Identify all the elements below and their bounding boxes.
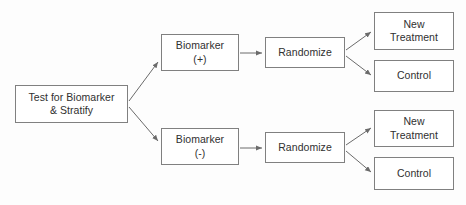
edge-randomize-pos-to-control	[346, 56, 371, 75]
node-control-positive-arm[interactable]: Control	[374, 60, 454, 92]
node-test-for-biomarker-and-stratify[interactable]: Test for Biomarker & Stratify	[15, 85, 128, 123]
node-label: New Treatment	[375, 18, 453, 45]
node-label: Control	[375, 167, 453, 180]
edge-test-to-biomarker-neg	[129, 107, 158, 141]
node-randomize-negative-arm[interactable]: Randomize	[265, 132, 345, 163]
edge-randomize-neg-to-control	[346, 151, 371, 172]
flowchart-canvas: Test for Biomarker & Stratify Biomarker …	[0, 0, 466, 205]
node-label: Biomarker (+)	[162, 39, 238, 66]
edge-test-to-biomarker-pos	[129, 62, 158, 101]
node-label: New Treatment	[375, 115, 453, 142]
node-randomize-positive-arm[interactable]: Randomize	[265, 37, 345, 68]
node-control-negative-arm[interactable]: Control	[374, 157, 454, 190]
node-label: Test for Biomarker & Stratify	[16, 91, 127, 118]
node-new-treatment-negative-arm[interactable]: New Treatment	[374, 110, 454, 147]
node-biomarker-positive[interactable]: Biomarker (+)	[161, 34, 239, 71]
node-biomarker-negative[interactable]: Biomarker (-)	[161, 128, 239, 165]
node-new-treatment-positive-arm[interactable]: New Treatment	[374, 12, 454, 50]
edge-randomize-pos-to-new-treatment	[346, 32, 371, 50]
node-label: Biomarker (-)	[162, 133, 238, 160]
node-label: Randomize	[266, 141, 344, 154]
node-label: Control	[375, 69, 453, 82]
node-label: Randomize	[266, 46, 344, 59]
edge-randomize-neg-to-new-treatment	[346, 128, 371, 145]
